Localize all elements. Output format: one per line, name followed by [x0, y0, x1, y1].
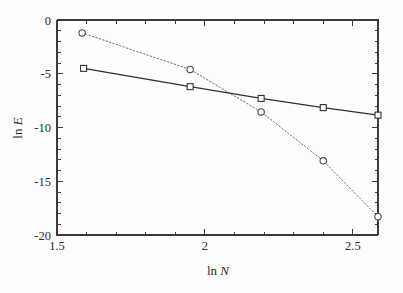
y-tick-label: -20: [34, 229, 51, 243]
y-tick-label: 0: [45, 14, 51, 28]
axis-left-bottom: [57, 20, 378, 235]
series-line: [82, 33, 378, 217]
x-tick-label: 2.5: [345, 239, 361, 253]
y-tick-label: -5: [41, 67, 51, 81]
data-point-marker: [258, 109, 264, 115]
data-point-marker: [375, 214, 381, 220]
data-point-marker: [320, 158, 326, 164]
axis-top-right: [57, 20, 378, 235]
data-point-marker: [187, 84, 193, 90]
series-solid-squares: [81, 65, 381, 118]
data-point-marker: [320, 105, 326, 111]
axis-tick-labels: 1.522.50-5-10-15-20: [34, 14, 360, 254]
axis-ticks: [57, 20, 378, 235]
series-dotted-circles: [79, 30, 381, 220]
axes-frame: [57, 20, 378, 235]
data-series-group: [79, 30, 381, 220]
data-point-marker: [187, 66, 193, 72]
y-axis-label: ln E: [10, 117, 25, 138]
data-point-marker: [79, 30, 85, 36]
data-point-marker: [375, 112, 381, 118]
series-line: [84, 68, 378, 115]
x-tick-label: 1.5: [49, 239, 65, 253]
data-point-marker: [81, 65, 87, 71]
figure-panel: 1.522.50-5-10-15-20 ln N ln E: [0, 0, 403, 293]
line-chart: 1.522.50-5-10-15-20 ln N ln E: [0, 0, 403, 293]
data-point-marker: [258, 95, 264, 101]
y-tick-label: -15: [34, 175, 51, 189]
y-tick-label: -10: [34, 121, 51, 135]
x-axis-label: ln N: [207, 263, 230, 278]
x-tick-label: 2: [202, 239, 208, 253]
